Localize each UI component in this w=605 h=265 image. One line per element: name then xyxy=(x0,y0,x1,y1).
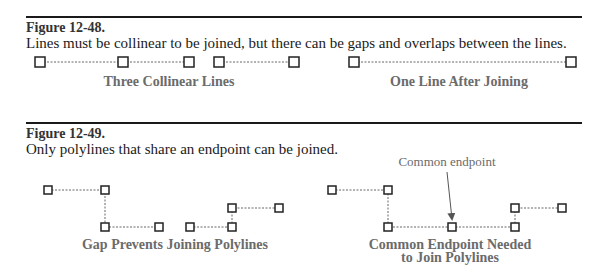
vertex-grip xyxy=(511,223,519,231)
one-line-after-joining-label: One Line After Joining xyxy=(390,74,528,89)
common-endpoint-label-line2: to Join Polylines xyxy=(401,250,500,265)
vertex-grip xyxy=(228,223,236,231)
figures-diagram: Three Collinear Lines One Line After Joi… xyxy=(0,0,605,265)
endpoint-grip xyxy=(118,57,128,67)
vertex-grip xyxy=(101,223,109,231)
vertex-grip xyxy=(275,204,283,212)
vertex-grip xyxy=(328,186,336,194)
endpoint-grip xyxy=(349,57,359,67)
common-endpoint-diagram: Common endpoint Common Endpoint Needed t… xyxy=(328,154,566,265)
endpoint-grip xyxy=(214,57,224,67)
three-collinear-lines-diagram: Three Collinear Lines xyxy=(35,57,299,89)
gap-prevents-joining-diagram: Gap Prevents Joining Polylines xyxy=(44,186,283,252)
vertex-grip xyxy=(558,204,566,212)
endpoint-grip xyxy=(35,57,45,67)
vertex-grip xyxy=(155,223,163,231)
vertex-grip xyxy=(44,186,52,194)
endpoint-grip xyxy=(289,57,299,67)
vertex-grip xyxy=(384,186,392,194)
vertex-grip xyxy=(101,186,109,194)
annotation-arrow-icon xyxy=(447,172,452,219)
three-collinear-lines-label: Three Collinear Lines xyxy=(104,74,235,89)
vertex-grip xyxy=(511,204,519,212)
one-line-after-joining-diagram: One Line After Joining xyxy=(349,57,576,89)
vertex-grip xyxy=(186,223,194,231)
common-endpoint-grip xyxy=(448,223,456,231)
gap-prevents-joining-label: Gap Prevents Joining Polylines xyxy=(82,237,269,252)
vertex-grip xyxy=(228,204,236,212)
common-endpoint-annotation: Common endpoint xyxy=(398,154,496,169)
vertex-grip xyxy=(384,223,392,231)
endpoint-grip xyxy=(566,57,576,67)
endpoint-grip xyxy=(184,57,194,67)
